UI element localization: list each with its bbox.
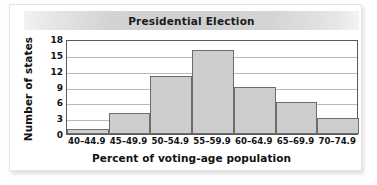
y-axis-tick-label: 12: [37, 67, 63, 77]
bar: [109, 113, 151, 134]
chart-card: Presidential Election Number of states 0…: [9, 4, 362, 171]
x-axis-tick-label: 50–54.9: [152, 136, 189, 146]
histogram-figure: Presidential Election Number of states 0…: [0, 0, 377, 185]
bar: [192, 50, 234, 134]
chart-title-band: Presidential Election: [24, 11, 359, 30]
x-axis-tick-labels: 40–44.945–49.950–54.955–59.960–64.965–69…: [66, 136, 358, 150]
y-axis-title-text: Number of states: [22, 37, 34, 141]
bar: [276, 102, 318, 134]
y-axis-tick-label: 9: [37, 83, 63, 93]
bar: [150, 76, 192, 134]
x-axis-tick-label: 40–44.9: [68, 136, 105, 146]
y-axis-tick-label: 15: [37, 51, 63, 61]
bar-series: [67, 41, 357, 134]
bar: [234, 87, 276, 135]
y-axis-tick-labels: 0369121518: [37, 32, 63, 140]
chart-title: Presidential Election: [128, 15, 255, 27]
bar: [317, 118, 359, 134]
x-axis-tick-label: 45–49.9: [110, 136, 147, 146]
y-axis-tick-label: 3: [37, 114, 63, 124]
y-axis-title: Number of states: [20, 41, 36, 137]
y-axis-tick-label: 0: [37, 130, 63, 140]
bar: [67, 129, 109, 134]
y-axis-tick-label: 18: [37, 35, 63, 45]
x-axis-tick-label: 55–59.9: [193, 136, 230, 146]
x-axis-title: Percent of voting-age population: [24, 152, 359, 164]
y-axis-tick-label: 6: [37, 98, 63, 108]
x-axis-tick-label: 60–64.9: [235, 136, 272, 146]
plot-area: [66, 40, 358, 135]
x-axis-tick-label: 65–69.9: [277, 136, 314, 146]
x-axis-tick-label: 70–74.9: [318, 136, 355, 146]
